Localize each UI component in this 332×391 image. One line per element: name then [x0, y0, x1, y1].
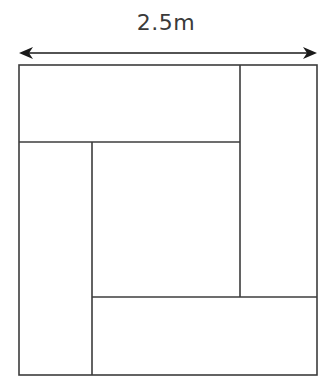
- pinwheel-diagram: [0, 0, 332, 391]
- outer-square: [19, 65, 317, 375]
- dimension-arrow: [19, 47, 317, 59]
